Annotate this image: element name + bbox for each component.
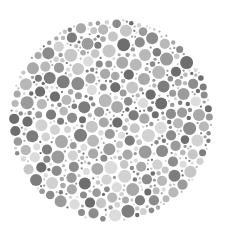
ishihara-plate-container: Circular mosaic of small gray dots of va… [0,0,228,234]
ishihara-hidden-figure-overlay [0,0,228,234]
